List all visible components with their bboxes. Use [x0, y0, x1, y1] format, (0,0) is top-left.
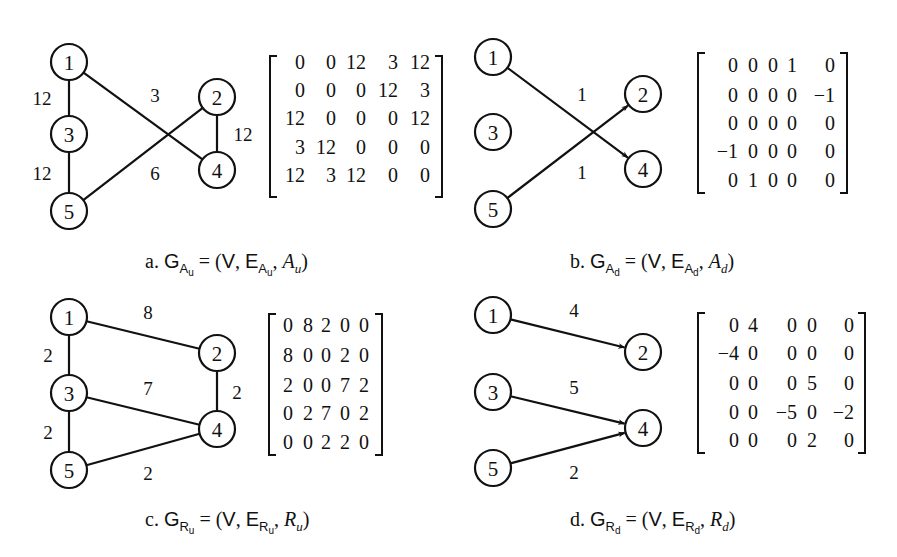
matrix-cell: 7: [321, 402, 331, 424]
node-label: 5: [64, 200, 75, 224]
matrix-cell: −5: [776, 401, 797, 423]
matrix-cell: 2: [340, 344, 350, 366]
matrix-cell: 0: [728, 169, 738, 191]
left-bracket: [698, 53, 705, 193]
matrix-cell: 0: [729, 314, 739, 336]
matrix-cell: 0: [303, 374, 313, 396]
matrix-cell: 2: [359, 402, 369, 424]
edge-weight-label: 1: [577, 162, 587, 183]
matrix-cell: 0: [283, 402, 293, 424]
matrix-cell: 0: [321, 374, 331, 396]
matrix-cell: 0: [340, 402, 350, 424]
matrix-cell: 12: [316, 136, 336, 158]
matrix-cell: 2: [807, 429, 817, 451]
panel-a-undirected-A-graph: 1212361212345001231200012312000123120001…: [33, 44, 443, 229]
matrix-cell: 0: [728, 84, 738, 106]
node-1: 1: [475, 297, 511, 333]
right-bracket: [435, 56, 442, 197]
node-1: 1: [475, 39, 511, 75]
matrix-cell: 0: [356, 136, 366, 158]
matrix-cell: 0: [388, 107, 398, 129]
matrix-cell: 0: [729, 401, 739, 423]
node-label: 2: [638, 341, 649, 365]
matrix-cell: 0: [807, 314, 817, 336]
edge-weight-label: 4: [569, 300, 579, 321]
node-label: 4: [638, 417, 649, 441]
edge-5-4: [510, 433, 624, 463]
matrix-cell: 0: [748, 84, 758, 106]
matrix-cell: 2: [321, 314, 331, 336]
edge-5-2: [83, 108, 202, 200]
matrix-cell: 0: [844, 429, 854, 451]
node-label: 4: [212, 418, 223, 442]
matrix-cell: 0: [748, 401, 758, 423]
node-3: 3: [51, 116, 87, 152]
left-bracket: [269, 314, 276, 455]
node-1: 1: [51, 44, 87, 80]
matrix-cell: 0: [807, 342, 817, 364]
matrix-cell: 8: [283, 344, 293, 366]
node-3: 3: [475, 374, 511, 410]
matrix-cell: 0: [748, 429, 758, 451]
matrix-cell: 0: [844, 372, 854, 394]
caption-prefix: b.: [570, 250, 585, 272]
matrix-cell: 0: [787, 112, 797, 134]
edge-weight-label: 3: [150, 85, 160, 106]
panel-d-directed-R-graph: 4521234504000−400000005000−50−200020: [475, 297, 865, 486]
edge-5-4: [86, 434, 199, 465]
matrix-cell: 2: [321, 431, 331, 453]
node-5: 5: [475, 191, 511, 227]
matrix-cell: 0: [359, 431, 369, 453]
matrix-cell: 0: [729, 429, 739, 451]
panel-c-undirected-R-graph: 228722123450820080020200720270200220: [43, 299, 382, 488]
matrix-cell: 2: [340, 431, 350, 453]
matrix-cell: 0: [359, 314, 369, 336]
matrix-cell: 0: [807, 401, 817, 423]
matrix-cell: 0: [825, 112, 835, 134]
node-3: 3: [475, 114, 511, 150]
edge-weight-label: 12: [234, 124, 253, 145]
node-2: 2: [199, 79, 235, 115]
edge-weight-label: 12: [33, 163, 52, 184]
node-label: 4: [638, 158, 649, 182]
edge-weight-label: 2: [232, 382, 242, 403]
edge-1-4: [84, 73, 203, 160]
matrix-cell: 0: [825, 140, 835, 162]
matrix-cell: 12: [285, 164, 305, 186]
node-4: 4: [625, 410, 661, 446]
caption-panel-b: b. GAd = (V, EAd, Ad): [570, 250, 734, 278]
node-4: 4: [625, 151, 661, 187]
node-label: 3: [64, 123, 75, 147]
right-bracket: [840, 53, 847, 193]
matrix-cell: 2: [303, 402, 313, 424]
matrix-cell: −2: [833, 401, 854, 423]
matrix-cell: 0: [388, 136, 398, 158]
matrix-cell: 0: [326, 51, 336, 73]
matrix-cell: 0: [283, 431, 293, 453]
matrix-cell: 0: [295, 51, 305, 73]
right-bracket: [375, 314, 382, 455]
node-2: 2: [625, 76, 661, 112]
matrix-cell: 0: [321, 344, 331, 366]
edge-weight-label: 1: [577, 84, 587, 105]
node-label: 1: [64, 51, 75, 75]
figure-canvas: 1212361212345001231200012312000123120001…: [0, 0, 897, 557]
matrix-cell: 3: [295, 136, 305, 158]
matrix-cell: 12: [346, 164, 366, 186]
adjacency-matrix: 0820080020200720270200220: [269, 314, 382, 455]
adjacency-matrix: 04000−400000005000−50−200020: [698, 313, 865, 453]
edge-5-2: [507, 106, 628, 198]
matrix-cell: 0: [787, 169, 797, 191]
matrix-cell: 8: [303, 314, 313, 336]
node-label: 4: [212, 159, 223, 183]
matrix-cell: −1: [814, 84, 835, 106]
right-bracket: [858, 313, 865, 453]
matrix-cell: 0: [748, 342, 758, 364]
edge-1-2: [510, 319, 624, 347]
matrix-cell: 12: [410, 51, 430, 73]
matrix-cell: 0: [728, 54, 738, 76]
caption-prefix: c.: [145, 508, 159, 530]
matrix-cell: 3: [420, 79, 430, 101]
node-4: 4: [199, 411, 235, 447]
matrix-cell: 0: [728, 112, 738, 134]
